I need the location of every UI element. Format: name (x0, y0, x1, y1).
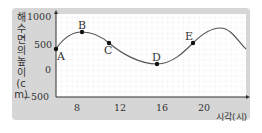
line-chart (0, 0, 262, 133)
x-axis-arrow-icon (246, 95, 250, 99)
point-e-label: E (185, 30, 193, 43)
point-d-label: D (152, 51, 161, 64)
point-b-label: B (78, 19, 86, 32)
point-a-label: A (57, 50, 65, 63)
y-axis-arrow-icon (54, 10, 58, 14)
point-c-label: C (104, 44, 112, 57)
